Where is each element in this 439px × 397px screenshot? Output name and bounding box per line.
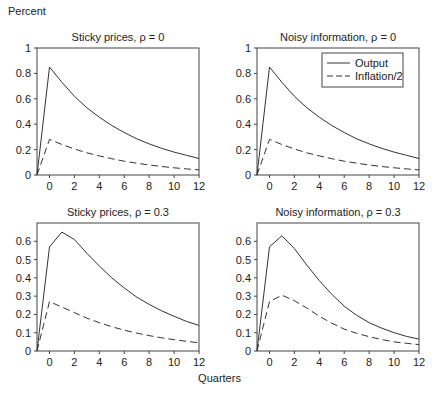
x-tick-label: 8 bbox=[366, 356, 372, 368]
x-tick-label: 10 bbox=[388, 356, 400, 368]
y-tick-label: 1 bbox=[245, 42, 251, 54]
axes-box bbox=[257, 223, 419, 351]
x-tick-label: 0 bbox=[46, 180, 52, 192]
y-tick-label: 0.6 bbox=[16, 235, 31, 247]
inflation-line bbox=[257, 295, 419, 351]
output-line bbox=[37, 232, 199, 351]
y-tick-label: 0.1 bbox=[236, 327, 251, 339]
x-tick-label: 12 bbox=[413, 356, 425, 368]
y-tick-label: 0.5 bbox=[236, 254, 251, 266]
y-tick-label: 0 bbox=[25, 169, 31, 181]
panel-title: Noisy information, ρ = 0.3 bbox=[275, 206, 400, 218]
y-tick-label: 0.2 bbox=[236, 308, 251, 320]
legend-label: Inflation/2 bbox=[355, 70, 403, 82]
y-tick-label: 0.6 bbox=[16, 93, 31, 105]
y-tick-label: 0.3 bbox=[16, 290, 31, 302]
x-tick-label: 8 bbox=[146, 356, 152, 368]
y-tick-label: 0.8 bbox=[236, 67, 251, 79]
legend: OutputInflation/2 bbox=[322, 53, 403, 87]
x-tick-label: 10 bbox=[388, 180, 400, 192]
x-tick-label: 2 bbox=[291, 180, 297, 192]
x-tick-label: 10 bbox=[168, 180, 180, 192]
inflation-line bbox=[37, 139, 199, 175]
x-tick-label: 6 bbox=[121, 180, 127, 192]
x-tick-label: 12 bbox=[193, 180, 205, 192]
x-tick-label: 12 bbox=[413, 180, 425, 192]
y-tick-label: 0.5 bbox=[16, 254, 31, 266]
y-tick-label: 1 bbox=[25, 42, 31, 54]
y-tick-label: 0.4 bbox=[236, 118, 251, 130]
y-tick-label: 0.4 bbox=[236, 272, 251, 284]
inflation-line bbox=[257, 139, 419, 175]
y-tick-label: 0.6 bbox=[236, 93, 251, 105]
panel-noisy-information-rho-0-3: Noisy information, ρ = 0.300.10.20.30.40… bbox=[236, 206, 425, 368]
y-tick-label: 0.2 bbox=[16, 308, 31, 320]
x-tick-label: 0 bbox=[46, 356, 52, 368]
panel-title: Noisy information, ρ = 0 bbox=[280, 31, 396, 43]
axes-box bbox=[37, 48, 199, 175]
y-tick-label: 0 bbox=[245, 345, 251, 357]
legend-label: Output bbox=[355, 57, 388, 69]
x-tick-label: 8 bbox=[146, 180, 152, 192]
y-tick-label: 0 bbox=[25, 345, 31, 357]
x-tick-label: 6 bbox=[121, 356, 127, 368]
x-tick-label: 8 bbox=[366, 180, 372, 192]
y-tick-label: 0.4 bbox=[16, 118, 31, 130]
panel-sticky-prices-rho-0-3: Sticky prices, ρ = 0.300.10.20.30.40.50.… bbox=[16, 206, 205, 368]
panel-sticky-prices-rho-0: Sticky prices, ρ = 000.20.40.60.81024681… bbox=[16, 31, 205, 192]
y-tick-label: 0.4 bbox=[16, 272, 31, 284]
x-tick-label: 0 bbox=[266, 180, 272, 192]
y-tick-label: 0.6 bbox=[236, 235, 251, 247]
x-tick-label: 2 bbox=[291, 356, 297, 368]
y-tick-label: 0.2 bbox=[16, 144, 31, 156]
chart-figure: Sticky prices, ρ = 000.20.40.60.81024681… bbox=[0, 0, 439, 397]
x-tick-label: 0 bbox=[266, 356, 272, 368]
x-tick-label: 2 bbox=[71, 356, 77, 368]
x-tick-label: 12 bbox=[193, 356, 205, 368]
y-tick-label: 0.3 bbox=[236, 290, 251, 302]
x-tick-label: 6 bbox=[341, 356, 347, 368]
y-tick-label: 0.8 bbox=[16, 67, 31, 79]
x-tick-label: 10 bbox=[168, 356, 180, 368]
y-tick-label: 0.1 bbox=[16, 327, 31, 339]
panel-title: Sticky prices, ρ = 0 bbox=[72, 31, 165, 43]
y-tick-label: 0 bbox=[245, 169, 251, 181]
x-tick-label: 4 bbox=[316, 180, 322, 192]
x-tick-label: 4 bbox=[316, 356, 322, 368]
output-line bbox=[257, 236, 419, 351]
panel-title: Sticky prices, ρ = 0.3 bbox=[67, 206, 169, 218]
inflation-line bbox=[37, 302, 199, 351]
output-line bbox=[37, 67, 199, 175]
x-tick-label: 4 bbox=[96, 356, 102, 368]
x-tick-label: 4 bbox=[96, 180, 102, 192]
axes-box bbox=[37, 223, 199, 351]
x-tick-label: 6 bbox=[341, 180, 347, 192]
y-tick-label: 0.2 bbox=[236, 144, 251, 156]
x-tick-label: 2 bbox=[71, 180, 77, 192]
